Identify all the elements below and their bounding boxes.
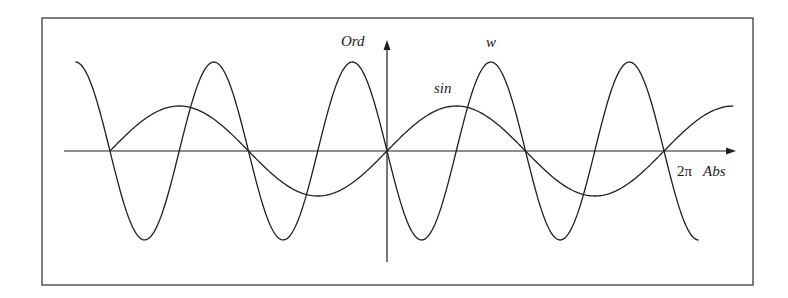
- x-tick-2pi-label: 2π: [677, 163, 693, 179]
- plot-canvas: Ord w sin 2π Abs: [0, 0, 788, 298]
- curve-sin-label: sin: [434, 80, 452, 96]
- curve-w-label: w: [486, 34, 496, 50]
- x-axis-arrow-icon: [726, 148, 736, 155]
- x-axis-label: Abs: [702, 163, 726, 179]
- y-axis-arrow-icon: [384, 40, 391, 50]
- y-axis-label: Ord: [341, 33, 365, 49]
